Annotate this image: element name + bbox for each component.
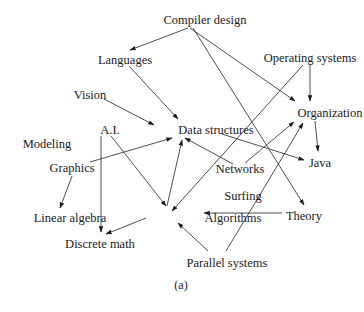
edge-graphics-to-linalg <box>60 176 72 208</box>
figure-caption: (a) <box>174 278 187 292</box>
edge-ai-to-algorithms <box>111 136 166 206</box>
node-languages: Languages <box>98 53 152 67</box>
course-dependency-graph: Compiler designLanguagesOperating system… <box>0 0 364 312</box>
node-parallel: Parallel systems <box>187 256 268 270</box>
node-compiler: Compiler design <box>164 13 248 27</box>
node-vision: Vision <box>74 88 107 102</box>
node-ai: A.I. <box>100 123 119 137</box>
edge-algorithms-to-discrete <box>106 218 146 234</box>
edge-graphics-to-datastructures <box>90 138 172 162</box>
edge-datastructures-to-java <box>222 134 304 160</box>
node-discrete: Discrete math <box>65 237 136 251</box>
node-algorithms: Algorithms <box>205 211 262 225</box>
node-graphics: Graphics <box>49 161 94 175</box>
node-organization: Organization <box>297 106 363 120</box>
nodes-group: Compiler designLanguagesOperating system… <box>23 13 364 270</box>
node-theory: Theory <box>286 209 323 223</box>
node-java: Java <box>309 156 332 170</box>
edge-organization-to-java <box>315 121 318 151</box>
edge-vision-to-datastructures <box>104 99 154 125</box>
edge-parallel-to-algorithms <box>178 223 208 251</box>
node-modeling: Modeling <box>23 137 72 151</box>
node-linalg: Linear algebra <box>34 211 107 225</box>
node-surfing: Surfing <box>224 189 262 203</box>
node-networks: Networks <box>216 162 265 176</box>
edge-languages-to-datastructures <box>129 66 178 119</box>
edge-algorithms-to-datastructures <box>167 140 182 206</box>
edge-compiler-to-languages <box>130 28 188 50</box>
node-os: Operating systems <box>264 51 357 65</box>
node-datastructures: Data structures <box>178 123 253 137</box>
